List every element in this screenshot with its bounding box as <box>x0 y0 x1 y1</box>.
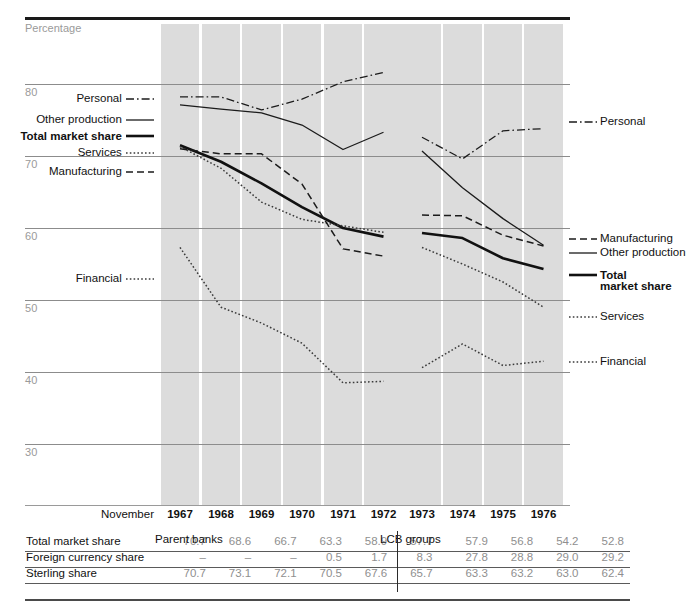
table-cell: 54.2 <box>539 533 584 549</box>
legend-left-other-production: Other production <box>0 113 158 125</box>
legend-right-label: Manufacturing <box>600 232 673 244</box>
data-table: Parent banks LCB groups Total market sha… <box>25 533 630 581</box>
table-cell: 57.9 <box>439 533 494 549</box>
legend-right-personal: Personal <box>568 115 645 127</box>
table-body: Total market share70.768.666.763.358.957… <box>25 533 630 581</box>
x-tick-1976: 1976 <box>522 508 566 520</box>
legend-swatch-dash-dot <box>125 94 155 104</box>
table-cell: 56.8 <box>494 533 539 549</box>
series-line-personal-lcb-groups <box>422 129 544 159</box>
legend-right-label-line2: market share <box>600 280 672 292</box>
legend-left-label: Personal <box>76 92 121 104</box>
legend-left-services: Services <box>0 146 158 158</box>
legend-left-label: Total market share <box>20 130 121 142</box>
legend-left-financial: Financial <box>0 272 158 284</box>
series-line-total-market-share-lcb-groups <box>422 233 544 269</box>
legend-swatch-dotted <box>568 357 598 367</box>
table-row-label: Total market share <box>25 533 167 549</box>
x-tick-1975: 1975 <box>481 508 525 520</box>
series-line-financial-parent-banks <box>180 247 384 382</box>
series-line-services-lcb-groups <box>422 247 544 307</box>
x-axis-rule <box>25 505 570 506</box>
table-cell: 52.8 <box>585 533 630 549</box>
legend-right-label: Services <box>600 310 644 322</box>
legend-swatch-dashed <box>125 167 155 177</box>
legend-swatch-dashed <box>568 234 598 244</box>
legend-left-label: Services <box>78 146 122 158</box>
legend-swatch-solid <box>125 115 155 125</box>
legend-left-label: Financial <box>76 272 122 284</box>
legend-right-label: Other production <box>600 246 686 258</box>
table-row: Total market share70.768.666.763.358.957… <box>25 533 630 549</box>
legend-left-label: Other production <box>36 113 122 125</box>
table-group-separator <box>397 531 398 592</box>
legend-swatch-dash-dot <box>568 117 598 127</box>
x-tick-1968: 1968 <box>199 508 243 520</box>
legend-right-total: Totalmarket share <box>568 269 672 292</box>
table-cell: 63.3 <box>303 533 348 549</box>
legend-left-total-market-share: Total market share <box>0 130 158 142</box>
x-tick-1970: 1970 <box>280 508 324 520</box>
legend-right-label: Personal <box>600 115 645 127</box>
legend-right-manufacturing: Manufacturing <box>568 232 673 244</box>
legend-swatch-solid-bold <box>125 131 155 141</box>
legend-swatch-dotted <box>125 148 155 158</box>
x-tick-1967: 1967 <box>158 508 202 520</box>
series-line-total-market-share-parent-banks <box>180 145 384 236</box>
series-line-other-production-lcb-groups <box>422 151 544 245</box>
table-rule <box>25 567 630 568</box>
legend-swatch-dotted <box>125 274 155 284</box>
x-tick-1974: 1974 <box>441 508 485 520</box>
table-rule <box>25 551 630 552</box>
series-line-services-parent-banks <box>180 147 384 233</box>
table-group-header-lcb-groups: LCB groups <box>380 533 441 545</box>
legend-right-label: Total <box>600 269 627 281</box>
x-tick-1971: 1971 <box>321 508 365 520</box>
x-tick-1973: 1973 <box>400 508 444 520</box>
table-cell: 66.7 <box>257 533 302 549</box>
legend-left-label: Manufacturing <box>49 165 122 177</box>
legend-left-personal: Personal <box>0 92 158 104</box>
table-group-header-parent-banks: Parent banks <box>155 533 223 545</box>
series-line-personal-parent-banks <box>180 72 384 109</box>
plot-area: Percentage 807060504030 Personal Other p… <box>0 0 655 505</box>
series-line-manufacturing-parent-banks <box>180 149 384 256</box>
legend-swatch-dotted <box>568 312 598 322</box>
series-line-financial-lcb-groups <box>422 344 544 368</box>
legend-right-label: Financial <box>600 355 646 367</box>
series-line-manufacturing-lcb-groups <box>422 215 544 246</box>
table-rule <box>25 583 630 584</box>
legend-left-manufacturing: Manufacturing <box>0 165 158 177</box>
legend-swatch-solid-bold <box>568 270 598 280</box>
x-tick-1972: 1972 <box>362 508 406 520</box>
x-tick-1969: 1969 <box>240 508 284 520</box>
x-axis-month-label: November <box>62 508 154 520</box>
legend-swatch-solid <box>568 248 598 258</box>
legend-right-other-production: Other production <box>568 246 686 258</box>
series-curves <box>0 0 655 505</box>
series-line-other-production-parent-banks <box>180 105 384 150</box>
legend-right-financial: Financial <box>568 355 646 367</box>
legend-right-services: Services <box>568 310 644 322</box>
